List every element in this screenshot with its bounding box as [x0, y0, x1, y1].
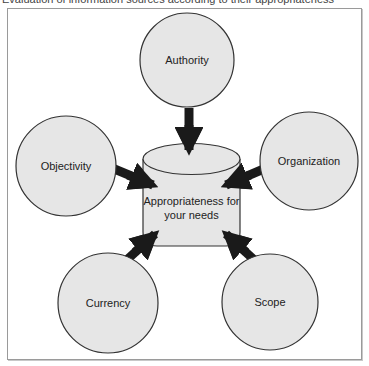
center-label-line2: your needs: [164, 209, 219, 221]
node-label-authority: Authority: [165, 54, 209, 66]
node-authority: Authority: [140, 13, 234, 107]
node-scope: Scope: [222, 254, 318, 350]
node-label-scope: Scope: [254, 296, 285, 308]
node-label-objectivity: Objectivity: [41, 160, 92, 172]
diagram-canvas: Appropriateness for your needs Authority…: [0, 0, 369, 366]
node-label-organization: Organization: [278, 155, 340, 167]
center-cylinder: Appropriateness for your needs: [143, 144, 240, 247]
node-objectivity: Objectivity: [16, 116, 116, 216]
node-currency: Currency: [58, 253, 158, 353]
node-organization: Organization: [260, 112, 358, 210]
center-label-line1: Appropriateness for: [144, 195, 240, 207]
node-label-currency: Currency: [86, 297, 131, 309]
